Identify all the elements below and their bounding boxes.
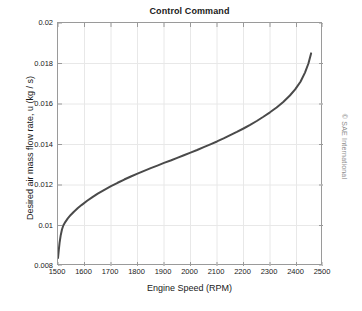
gridlines [58, 23, 323, 266]
plot-svg [58, 23, 323, 266]
x-tick-label: 2500 [302, 267, 342, 276]
plot-area [57, 22, 322, 265]
figure-canvas: Control Command 0.0080.010.0120.0140.016… [0, 0, 362, 311]
copyright-notice: © SAE International [341, 87, 348, 207]
data-series-line [58, 53, 311, 258]
x-axis-label: Engine Speed (RPM) [57, 283, 322, 293]
chart-title: Control Command [57, 5, 322, 17]
y-axis-label: Desired air mass flow rate, u (kg / s) [25, 23, 35, 273]
